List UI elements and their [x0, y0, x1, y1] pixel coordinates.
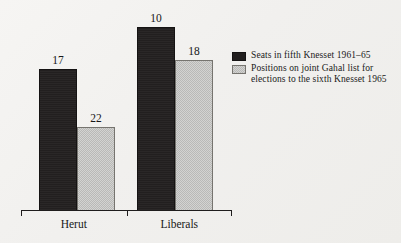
light-swatch-icon: [232, 65, 246, 74]
legend-label-positions-line1: Positions on joint Gahal list for: [251, 63, 373, 73]
axis-tick-start: [21, 211, 22, 216]
x-axis: [21, 210, 232, 217]
bar-value-liberals-positions: 18: [188, 46, 200, 58]
bar-chart: 17 22 10 18 Herut Liberals: [0, 0, 401, 243]
legend-label-seats: Seats in fifth Knesset 1961–65: [251, 50, 371, 62]
legend-label-positions: Positions on joint Gahal list for electi…: [251, 63, 387, 86]
bar-value-herut-seats: 17: [52, 55, 64, 67]
bar-herut-seats-fifth-knesset[interactable]: [39, 69, 77, 211]
bar-liberals-seats-fifth-knesset[interactable]: [137, 27, 175, 211]
bar-herut-gahal-positions[interactable]: [77, 127, 115, 211]
legend-entry-seats[interactable]: Seats in fifth Knesset 1961–65: [232, 50, 398, 62]
legend-label-positions-line2: elections to the sixth Knesset 1965: [251, 74, 387, 86]
bar-value-herut-positions: 22: [90, 113, 102, 125]
dark-swatch-icon: [232, 52, 246, 61]
x-axis-label-liberals: Liberals: [160, 219, 198, 231]
x-axis-labels: Herut Liberals: [21, 219, 232, 237]
axis-tick-middle: [127, 211, 128, 216]
bar-value-liberals-seats: 10: [150, 13, 162, 25]
plot-area: 17 22 10 18: [21, 10, 232, 211]
legend-entry-positions[interactable]: Positions on joint Gahal list for electi…: [232, 63, 398, 86]
chart-legend: Seats in fifth Knesset 1961–65 Positions…: [232, 50, 398, 87]
bars-container: 17 22 10 18: [21, 10, 232, 211]
x-axis-label-herut: Herut: [61, 219, 87, 231]
bar-liberals-gahal-positions[interactable]: [175, 60, 213, 211]
axis-tick-end: [231, 211, 232, 216]
